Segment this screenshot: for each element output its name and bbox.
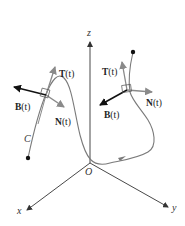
tangent-arrow-left — [46, 67, 55, 95]
x-axis — [27, 163, 90, 210]
tangent-label-left: T(t) — [59, 69, 74, 80]
tangent-arrow-right — [122, 62, 127, 90]
y-axis-label: y — [171, 202, 177, 213]
curve-label: C — [24, 133, 31, 144]
tangent-line-left — [38, 95, 46, 124]
binormal-label-right: B(t) — [104, 110, 119, 121]
curve-start-point — [26, 156, 30, 160]
tangent-label-right: T(t) — [102, 67, 117, 78]
tnb-frame-diagram: z x y O C T(t) B(t) N(t) T(t) N(t) B(t) — [0, 0, 185, 226]
normal-arrow-left — [46, 95, 64, 107]
tnb-frame-right: T(t) N(t) B(t) — [100, 62, 162, 121]
binormal-label-left: B(t) — [15, 102, 30, 113]
coordinate-axes: z x y O — [16, 27, 177, 216]
normal-label-right: N(t) — [146, 98, 162, 109]
origin-label: O — [85, 166, 92, 177]
curve-end-point — [131, 50, 135, 54]
z-axis-label: z — [86, 27, 91, 38]
curve-path — [28, 52, 154, 164]
curve-c: C — [24, 50, 154, 164]
normal-label-left: N(t) — [55, 117, 71, 128]
x-axis-label: x — [16, 205, 22, 216]
y-axis — [90, 163, 168, 207]
